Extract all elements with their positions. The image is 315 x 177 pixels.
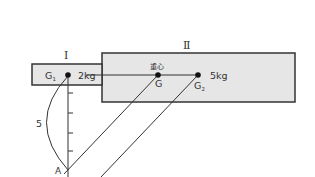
center-of-gravity-diagram: Ⅰ Ⅱ G1 2kg 重心 G 5kg G2 5 A (0, 0, 315, 177)
block-II-label: Ⅱ (183, 39, 190, 52)
center-caption: 重心 (150, 63, 164, 71)
point-G1 (65, 72, 71, 78)
block-I-label: Ⅰ (64, 49, 68, 62)
ruler-ticks (68, 93, 73, 151)
point-G (155, 72, 161, 78)
pivot-A-label: A (55, 166, 62, 176)
length-arc (47, 76, 69, 170)
length-label: 5 (36, 118, 42, 129)
mass-II-label: 5kg (210, 70, 228, 81)
point-G2 (195, 72, 201, 78)
mass-I-label: 2kg (78, 70, 96, 81)
G-label: G (155, 78, 162, 89)
